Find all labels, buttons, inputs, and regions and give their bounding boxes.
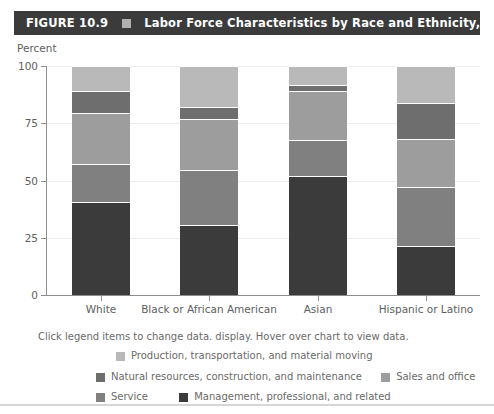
legend-swatch-natural-resources[interactable]: [96, 373, 105, 382]
y-tick-label: 75: [8, 118, 38, 129]
bar-segment[interactable]: [289, 66, 347, 85]
bar-segment[interactable]: [180, 107, 238, 118]
bar-stack-black-or-african-american[interactable]: [180, 66, 238, 295]
y-tick-label: 50: [8, 176, 38, 187]
y-tick-label: 0: [8, 290, 38, 301]
bar-segment[interactable]: [180, 66, 238, 107]
bar-segment[interactable]: [72, 113, 130, 165]
bar-segment[interactable]: [397, 139, 455, 187]
bar-stack-white[interactable]: [72, 66, 130, 295]
bar-segment[interactable]: [397, 66, 455, 103]
x-tick-mark: [426, 296, 427, 301]
bar-segment[interactable]: [72, 164, 130, 202]
legend-hint-text: Click legend items to change data. displ…: [38, 331, 409, 342]
figure-number: FIGURE 10.9: [26, 16, 108, 30]
legend-item-natural-resources[interactable]: Natural resources, construction, and mai…: [96, 372, 362, 382]
y-tick-label: 25: [8, 233, 38, 244]
legend-label-natural-resources: Natural resources, construction, and mai…: [111, 372, 362, 382]
legend-row-2: Natural resources, construction, and mai…: [96, 372, 475, 384]
bar-segment[interactable]: [397, 103, 455, 140]
x-tick-mark: [209, 296, 210, 301]
figure-title: Labor Force Characteristics by Race and …: [144, 16, 494, 30]
top-rule: [0, 0, 494, 3]
legend-label-production: Production, transportation, and material…: [131, 351, 373, 361]
figure-header: FIGURE 10.9 Labor Force Characteristics …: [14, 11, 480, 35]
x-axis-line: [46, 295, 480, 296]
y-axis-label: Percent: [17, 42, 57, 54]
bar-segment[interactable]: [289, 140, 347, 175]
bar-segment[interactable]: [397, 246, 455, 295]
footer-rule: [0, 404, 494, 406]
legend-label-sales-office: Sales and office: [396, 372, 475, 382]
bar-stack-hispanic-or-latino[interactable]: [397, 66, 455, 295]
bar-segment[interactable]: [180, 119, 238, 171]
y-tick-label: 100: [8, 61, 38, 72]
bar-segment[interactable]: [289, 91, 347, 140]
bar-segment[interactable]: [180, 225, 238, 295]
bar-segment[interactable]: [397, 187, 455, 245]
x-tick-mark: [318, 296, 319, 301]
x-tick-mark: [101, 296, 102, 301]
legend-swatch-production[interactable]: [116, 352, 125, 361]
bar-segment[interactable]: [72, 202, 130, 295]
legend-item-management[interactable]: Management, professional, and related: [179, 392, 391, 402]
bar-segment[interactable]: [289, 85, 347, 91]
x-tick-label: Hispanic or Latino: [336, 303, 494, 315]
legend-item-sales-office[interactable]: Sales and office: [381, 372, 475, 382]
legend-label-management: Management, professional, and related: [194, 392, 391, 402]
bar-stack-asian[interactable]: [289, 66, 347, 295]
legend-swatch-sales-office[interactable]: [381, 373, 390, 382]
legend-label-service: Service: [111, 392, 148, 402]
legend-swatch-service[interactable]: [96, 393, 105, 402]
square-icon: [122, 19, 131, 28]
legend-row-3: Service Management, professional, and re…: [96, 392, 391, 404]
bar-segment[interactable]: [72, 91, 130, 113]
bar-segment[interactable]: [180, 170, 238, 225]
y-axis-line: [46, 66, 47, 296]
legend-row-1: Production, transportation, and material…: [116, 351, 373, 363]
legend-item-service[interactable]: Service: [96, 392, 148, 402]
legend-item-production[interactable]: Production, transportation, and material…: [116, 351, 373, 361]
legend-swatch-management[interactable]: [179, 393, 188, 402]
bar-segment[interactable]: [289, 176, 347, 295]
bar-segment[interactable]: [72, 66, 130, 91]
